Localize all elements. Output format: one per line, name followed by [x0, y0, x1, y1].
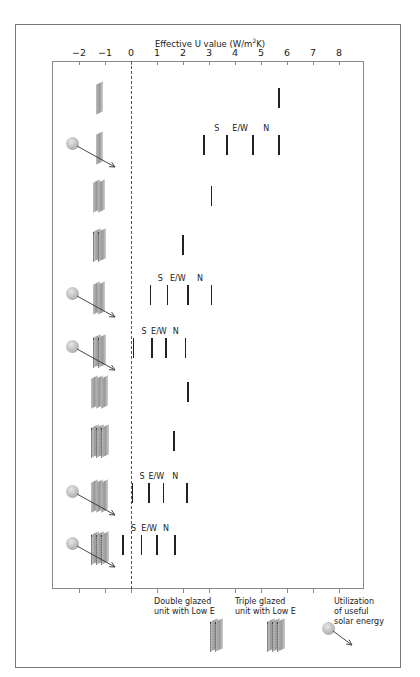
x-tick-top	[157, 61, 158, 65]
x-tick-bottom	[235, 589, 236, 593]
u-value-marker	[148, 483, 150, 503]
sun-icon	[66, 537, 79, 550]
x-tick-top	[105, 61, 106, 65]
x-tick-top	[183, 61, 184, 65]
orientation-label: E/W	[170, 274, 186, 283]
x-tick-label: 4	[232, 47, 238, 58]
x-tick-top	[261, 61, 262, 65]
x-tick-bottom	[131, 589, 132, 593]
glass-pane-icon	[101, 375, 108, 408]
u-value-marker	[122, 535, 124, 555]
orientation-label: E/W	[232, 124, 248, 133]
u-value-marker	[173, 431, 175, 451]
x-tick-bottom	[339, 589, 340, 593]
u-value-marker	[151, 338, 153, 358]
zero-reference-line	[131, 61, 132, 589]
x-tick-top	[79, 61, 80, 65]
glass-pane-icon	[96, 81, 103, 114]
u-value-marker	[187, 382, 189, 402]
x-tick-bottom	[157, 589, 158, 593]
x-tick-label: −1	[98, 47, 112, 58]
x-tick-label: 2	[180, 47, 186, 58]
x-tick-bottom	[79, 589, 80, 593]
x-tick-bottom	[287, 589, 288, 593]
u-value-marker	[278, 135, 280, 155]
u-value-marker	[182, 235, 184, 255]
u-value-marker	[185, 338, 187, 358]
x-tick-top	[313, 61, 314, 65]
glass-pane-icon	[98, 179, 105, 212]
u-value-marker	[133, 338, 135, 358]
x-tick-label: 3	[206, 47, 212, 58]
glass-pane-icon	[98, 228, 106, 262]
legend-triple-lowe-label: Triple glazedunit with Low E	[235, 597, 296, 617]
orientation-label: S	[131, 524, 136, 533]
orientation-label: S	[158, 274, 163, 283]
x-tick-top	[287, 61, 288, 65]
u-value-marker	[132, 483, 134, 503]
legend-double-lowe-label: Double glazedunit with Low E	[154, 597, 215, 617]
orientation-label: N	[172, 472, 178, 481]
u-value-marker	[211, 186, 213, 206]
u-value-marker	[156, 535, 158, 555]
u-value-marker	[252, 135, 254, 155]
orientation-label: S	[214, 124, 219, 133]
orientation-label: S	[141, 327, 146, 336]
x-tick-label: 6	[284, 47, 290, 58]
orientation-label: E/W	[149, 472, 165, 481]
x-tick-label: 8	[336, 47, 342, 58]
sun-icon	[66, 485, 79, 498]
orientation-label: E/W	[151, 327, 167, 336]
u-value-marker	[141, 535, 143, 555]
orientation-label: N	[197, 274, 203, 283]
x-tick-top	[235, 61, 236, 65]
orientation-label: S	[140, 472, 145, 481]
solar-arrow-icon	[0, 0, 1, 1]
orientation-label: N	[163, 524, 169, 533]
u-value-marker	[174, 535, 176, 555]
orientation-label: N	[263, 124, 269, 133]
legend-solar-label: Utilizationof usefulsolar energy	[334, 597, 384, 627]
x-tick-bottom	[313, 589, 314, 593]
u-value-marker	[186, 483, 188, 503]
u-value-marker	[163, 483, 165, 503]
sun-icon	[66, 287, 79, 300]
u-value-marker	[165, 338, 167, 358]
u-value-marker	[203, 135, 205, 155]
u-value-marker	[278, 88, 280, 108]
glass-pane-icon	[277, 618, 285, 652]
u-value-marker	[226, 135, 228, 155]
u-value-marker	[167, 285, 169, 305]
x-tick-bottom	[183, 589, 184, 593]
x-tick-bottom	[105, 589, 106, 593]
u-value-marker	[211, 285, 213, 305]
x-tick-bottom	[261, 589, 262, 593]
x-tick-label: 7	[310, 47, 316, 58]
x-tick-label: −2	[72, 47, 86, 58]
u-value-marker	[150, 285, 152, 305]
glass-pane-icon	[215, 618, 223, 652]
x-tick-label: 0	[128, 47, 134, 58]
x-tick-top	[339, 61, 340, 65]
glass-pane-icon	[101, 424, 109, 458]
u-value-marker	[187, 285, 189, 305]
x-tick-label: 5	[258, 47, 264, 58]
x-tick-label: 1	[154, 47, 160, 58]
x-tick-top	[209, 61, 210, 65]
orientation-label: N	[173, 327, 179, 336]
x-tick-bottom	[209, 589, 210, 593]
sun-icon	[66, 137, 79, 150]
orientation-label: E/W	[141, 524, 157, 533]
sun-icon	[66, 340, 79, 353]
sun-icon	[322, 622, 335, 635]
